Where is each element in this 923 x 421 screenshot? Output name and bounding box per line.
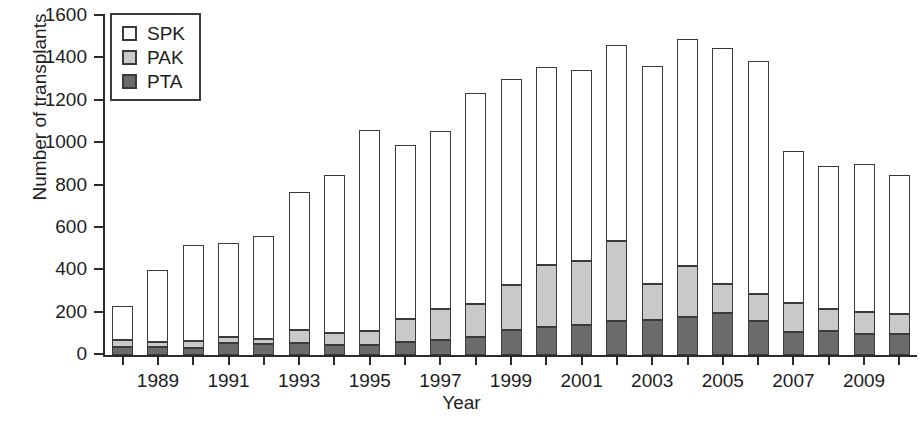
x-tick-2004 <box>687 355 689 365</box>
bar-segment-pta-2004 <box>677 317 698 355</box>
bar-segment-pta-1991 <box>218 343 239 355</box>
legend-item-spk: SPK <box>122 21 185 45</box>
bar-1997 <box>430 131 451 355</box>
bar-1994 <box>324 175 345 355</box>
bar-1999 <box>501 79 522 355</box>
bar-segment-pak-1996 <box>395 319 416 342</box>
bar-segment-pta-2007 <box>783 332 804 355</box>
x-tick-2008 <box>828 355 830 365</box>
bar-segment-pta-1995 <box>359 345 380 355</box>
bar-segment-pak-2000 <box>536 265 557 328</box>
y-tick-1200: 1200 <box>94 99 103 101</box>
y-tick-0: 0 <box>94 353 103 355</box>
legend-item-pak: PAK <box>122 45 185 69</box>
y-tick-600: 600 <box>94 226 103 228</box>
bar-1988 <box>112 306 133 355</box>
bar-segment-spk-2004 <box>677 39 698 266</box>
x-tick-2003 <box>651 355 653 365</box>
bar-segment-pta-1994 <box>324 345 345 355</box>
x-tick-label-1993: 1993 <box>278 370 320 392</box>
bar-segment-spk-1993 <box>289 192 310 330</box>
y-tick-800: 800 <box>94 184 103 186</box>
bar-segment-pta-2006 <box>748 321 769 355</box>
bar-segment-spk-2002 <box>606 45 627 241</box>
x-tick-label-1999: 1999 <box>490 370 532 392</box>
bar-segment-pta-1997 <box>430 340 451 355</box>
x-tick-1996 <box>404 355 406 365</box>
bar-segment-pta-1988 <box>112 347 133 355</box>
bar-segment-pta-2008 <box>818 331 839 355</box>
bar-segment-pak-2001 <box>571 261 592 326</box>
bar-1990 <box>183 245 204 355</box>
y-tick-label-0: 0 <box>76 343 87 365</box>
bar-segment-pak-2003 <box>642 284 663 320</box>
bar-segment-pta-2003 <box>642 320 663 355</box>
bar-segment-spk-2006 <box>748 61 769 294</box>
x-tick-1998 <box>475 355 477 365</box>
bar-1998 <box>465 93 486 355</box>
bar-2000 <box>536 67 557 355</box>
legend-label-pta: PTA <box>147 72 183 91</box>
bar-segment-pak-1998 <box>465 304 486 337</box>
legend-label-pak: PAK <box>147 48 184 67</box>
bar-segment-pta-2005 <box>712 313 733 355</box>
y-tick-400: 400 <box>94 268 103 270</box>
bar-segment-spk-2003 <box>642 66 663 284</box>
bar-segment-pak-2002 <box>606 241 627 322</box>
x-tick-1990 <box>192 355 194 365</box>
legend-label-spk: SPK <box>147 24 185 43</box>
x-tick-1997 <box>439 355 441 365</box>
bar-segment-spk-1995 <box>359 130 380 330</box>
bar-segment-spk-2010 <box>889 175 910 314</box>
bar-segment-spk-1991 <box>218 243 239 337</box>
bar-2002 <box>606 45 627 355</box>
y-axis-title: Number of transplants <box>29 0 51 257</box>
bar-segment-pak-1999 <box>501 285 522 329</box>
bar-2004 <box>677 39 698 355</box>
x-tick-label-1997: 1997 <box>419 370 461 392</box>
x-tick-label-2003: 2003 <box>631 370 673 392</box>
x-tick-label-2009: 2009 <box>843 370 885 392</box>
bar-segment-pak-2008 <box>818 309 839 330</box>
legend-swatch-spk-icon <box>122 26 137 41</box>
y-tick-label-800: 800 <box>55 174 87 196</box>
x-tick-1991 <box>228 355 230 365</box>
x-axis-title: Year <box>0 392 923 414</box>
x-tick-2009 <box>863 355 865 365</box>
y-tick-1000: 1000 <box>94 141 103 143</box>
bar-segment-pak-1994 <box>324 333 345 346</box>
bar-segment-spk-2001 <box>571 70 592 261</box>
x-tick-1999 <box>510 355 512 365</box>
bar-segment-pak-2010 <box>889 314 910 334</box>
bar-segment-pak-1990 <box>183 341 204 347</box>
y-tick-1600: 1600 <box>94 14 103 16</box>
x-tick-1992 <box>263 355 265 365</box>
y-tick-label-200: 200 <box>55 301 87 323</box>
bar-segment-pak-2009 <box>854 312 875 334</box>
bar-segment-pta-2010 <box>889 334 910 355</box>
bar-segment-pak-1991 <box>218 337 239 343</box>
chart-legend: SPKPAKPTA <box>110 13 201 101</box>
bar-segment-pta-2001 <box>571 325 592 355</box>
bar-2006 <box>748 61 769 356</box>
bar-segment-pak-1988 <box>112 340 133 346</box>
bar-segment-spk-1997 <box>430 131 451 309</box>
bar-2009 <box>854 164 875 355</box>
bar-segment-pta-1992 <box>253 344 274 355</box>
bar-segment-pta-1996 <box>395 342 416 355</box>
bar-segment-pta-1989 <box>147 347 168 355</box>
x-tick-2005 <box>722 355 724 365</box>
x-tick-1995 <box>369 355 371 365</box>
x-tick-label-1989: 1989 <box>137 370 179 392</box>
bar-segment-pak-1995 <box>359 331 380 346</box>
bar-segment-pta-1993 <box>289 343 310 355</box>
bar-segment-pak-2006 <box>748 294 769 322</box>
y-tick-1400: 1400 <box>94 56 103 58</box>
bar-segment-pak-1997 <box>430 309 451 340</box>
y-tick-label-1000: 1000 <box>45 131 87 153</box>
bar-segment-spk-1989 <box>147 270 168 342</box>
x-tick-2007 <box>792 355 794 365</box>
bar-1993 <box>289 192 310 355</box>
bar-2007 <box>783 151 804 355</box>
y-tick-label-600: 600 <box>55 216 87 238</box>
